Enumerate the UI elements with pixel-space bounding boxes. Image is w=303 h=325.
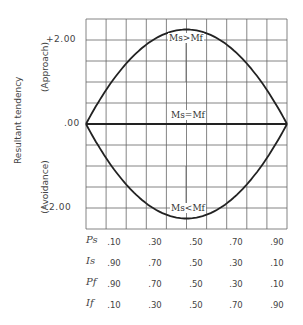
label-ms-lt-mf: Ms<Mf bbox=[170, 203, 206, 213]
y-tick-plus-2: +2.00 bbox=[46, 34, 76, 44]
row-label-ps: Ps bbox=[86, 234, 98, 245]
is-value: .90 bbox=[99, 258, 129, 268]
pf-value: .90 bbox=[99, 279, 129, 289]
row-label-pf: Pf bbox=[86, 276, 96, 287]
pf-value: .30 bbox=[221, 279, 251, 289]
is-value: .70 bbox=[140, 258, 170, 268]
pf-value: .50 bbox=[181, 279, 211, 289]
row-label-if: If bbox=[86, 297, 94, 308]
pf-value: .70 bbox=[140, 279, 170, 289]
chart: Resultant tendency (Approach) (Avoidance… bbox=[0, 0, 303, 325]
if-value: .30 bbox=[140, 300, 170, 310]
label-ms-eq-mf: Ms=Mf bbox=[170, 110, 206, 120]
ps-value: .30 bbox=[140, 237, 170, 247]
is-value: .10 bbox=[262, 258, 292, 268]
if-value: .50 bbox=[181, 300, 211, 310]
if-value: .10 bbox=[99, 300, 129, 310]
ps-value: .10 bbox=[99, 237, 129, 247]
ps-value: .70 bbox=[221, 237, 251, 247]
y-tick-zero: .00 bbox=[64, 118, 80, 128]
y-axis-label-approach: (Approach) bbox=[40, 37, 50, 97]
is-value: .30 bbox=[221, 258, 251, 268]
if-value: .70 bbox=[221, 300, 251, 310]
ps-value: .90 bbox=[262, 237, 292, 247]
row-label-is: Is bbox=[86, 255, 95, 266]
y-axis-label: Resultant tendency bbox=[13, 84, 23, 164]
if-value: .90 bbox=[262, 300, 292, 310]
ps-value: .50 bbox=[181, 237, 211, 247]
label-ms-gt-mf: Ms>Mf bbox=[168, 33, 204, 43]
pf-value: .10 bbox=[262, 279, 292, 289]
y-tick-minus-2: - 2.00 bbox=[42, 202, 71, 212]
is-value: .50 bbox=[181, 258, 211, 268]
